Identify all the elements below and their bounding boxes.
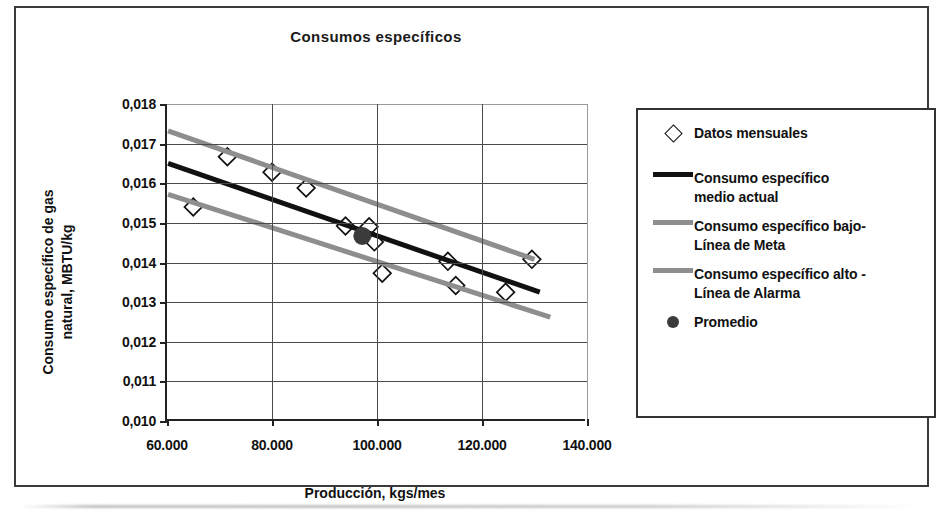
y-axis-tick	[160, 302, 167, 304]
x-axis-tick	[377, 419, 379, 426]
y-axis-tick-label: 0,011	[123, 373, 156, 389]
legend-key	[652, 313, 694, 328]
y-axis-tick-label: 0,010	[122, 413, 156, 429]
y-axis-tick	[160, 263, 167, 265]
legend-item-label: Consumo específicomedio actual	[694, 169, 829, 207]
x-axis-tick-label: 120.000	[457, 437, 506, 453]
trend-line	[168, 194, 550, 317]
legend-item-label-line: Consumo específico	[694, 170, 829, 186]
legend-circle-marker-icon	[667, 316, 679, 328]
legend-item-label: Promedio	[694, 313, 758, 332]
x-axis-tick-label: 100.000	[352, 437, 401, 453]
legend-item-label-line: Datos mensuales	[694, 125, 808, 141]
scan-artifact	[20, 505, 920, 508]
document-page: Consumos específicos 0,0100,0110,0120,01…	[0, 0, 941, 526]
x-gridline	[482, 104, 483, 421]
legend-item-label-line: medio actual	[694, 189, 778, 205]
x-axis-tick-label: 140.000	[562, 437, 611, 453]
x-gridline	[587, 104, 588, 421]
y-axis-tick	[160, 183, 167, 185]
chart-title: Consumos específicos	[166, 28, 586, 45]
document-frame: Consumos específicos 0,0100,0110,0120,01…	[14, 6, 929, 487]
legend-item-label-line: Promedio	[694, 314, 758, 330]
y-axis-tick	[160, 421, 167, 423]
x-axis-tick	[482, 419, 484, 426]
y-axis-tick-label: 0,017	[122, 136, 156, 152]
y-axis-tick-label: 0,016	[122, 175, 156, 191]
legend-item-label: Consumo específico alto -Línea de Alarma	[694, 265, 866, 303]
y-axis-tick-label: 0,015	[122, 215, 156, 231]
legend-line-swatch-icon	[653, 172, 693, 177]
y-axis-tick-label: 0,012	[122, 334, 156, 350]
legend-key	[652, 124, 694, 140]
y-axis-tick	[160, 342, 167, 344]
legend-item-label-line: Consumo específico alto -	[694, 266, 866, 282]
legend-item-label-line: Línea de Meta	[694, 237, 785, 253]
legend-item[interactable]: Consumo específicomedio actual	[652, 169, 924, 207]
legend-item[interactable]: Consumo específico bajo-Línea de Meta	[652, 217, 924, 255]
legend-item-label-line: Línea de Alarma	[694, 285, 800, 301]
y-axis-tick	[160, 223, 167, 225]
x-axis-tick-label: 60.000	[146, 437, 188, 453]
legend-diamond-marker-icon	[664, 124, 682, 142]
y-axis-title: Consumo específico de gas natural, MBTU/…	[39, 117, 77, 447]
y-axis-tick-label: 0,014	[122, 255, 156, 271]
y-axis-tick-label: 0,018	[122, 96, 156, 112]
chart-legend: Datos mensualesConsumo específicomedio a…	[636, 108, 936, 418]
x-axis-tick	[272, 419, 274, 426]
legend-item-label-line: Consumo específico bajo-	[694, 218, 866, 234]
x-axis-tick-label: 80.000	[251, 437, 293, 453]
x-axis-tick	[167, 419, 169, 426]
y-axis-tick	[160, 144, 167, 146]
legend-item[interactable]: Datos mensuales	[652, 124, 924, 143]
y-axis-title-line2: natural, MBTU/kg	[59, 224, 75, 339]
x-axis-tick	[587, 419, 589, 426]
plot-area: 0,0100,0110,0120,0130,0140,0150,0160,017…	[165, 104, 585, 421]
legend-key	[652, 169, 694, 177]
legend-item-label: Datos mensuales	[694, 124, 808, 143]
y-axis-title-line1: Consumo específico de gas	[40, 189, 56, 374]
x-axis-title: Producción, kgs/mes	[165, 485, 585, 501]
legend-key	[652, 265, 694, 273]
legend-key	[652, 217, 694, 225]
y-axis-tick	[160, 381, 167, 383]
trend-line	[168, 131, 534, 259]
legend-item[interactable]: Promedio	[652, 313, 924, 332]
x-gridline	[377, 104, 378, 421]
legend-line-swatch-icon	[653, 220, 693, 225]
x-gridline	[272, 104, 273, 421]
legend-line-swatch-icon	[653, 268, 693, 273]
y-axis-tick	[160, 104, 167, 106]
legend-item[interactable]: Consumo específico alto -Línea de Alarma	[652, 265, 924, 303]
legend-item-label: Consumo específico bajo-Línea de Meta	[694, 217, 866, 255]
y-axis-tick-label: 0,013	[122, 294, 156, 310]
average-point-marker	[353, 227, 371, 245]
